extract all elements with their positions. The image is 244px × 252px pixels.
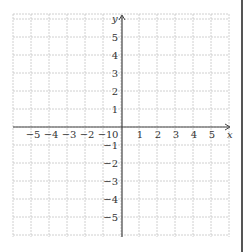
- x-tick-label: 2: [155, 129, 161, 140]
- x-tick-label: −4: [44, 129, 59, 140]
- y-tick-label: −2: [103, 158, 118, 169]
- y-axis-label: y: [111, 13, 118, 24]
- y-tick-label: 1: [112, 104, 118, 115]
- x-tick-label: −2: [80, 129, 95, 140]
- y-tick-label: −5: [103, 212, 118, 223]
- y-tick-label: 3: [112, 68, 118, 79]
- x-tick-label: 4: [191, 129, 197, 140]
- y-tick-label: −3: [103, 176, 118, 187]
- x-tick-label: 3: [173, 129, 179, 140]
- y-tick-label: 2: [112, 86, 118, 97]
- x-tick-labels: −5−4−3−2−1012345: [26, 129, 216, 140]
- y-tick-label: 4: [112, 50, 118, 61]
- y-tick-label: −4: [103, 194, 118, 205]
- coordinate-plane: x y −5−4−3−2−1012345 54321−1−2−3−4−5: [0, 0, 244, 252]
- grid: [13, 14, 229, 237]
- right-border: [241, 0, 243, 252]
- x-tick-label: −5: [26, 129, 41, 140]
- x-tick-label: 5: [209, 129, 215, 140]
- x-tick-label: 0: [112, 129, 118, 140]
- y-tick-label: −1: [103, 140, 118, 151]
- y-tick-label: 5: [112, 32, 118, 43]
- x-axis-label: x: [227, 129, 233, 140]
- x-tick-label: −1: [98, 129, 113, 140]
- x-tick-label: 1: [137, 129, 143, 140]
- x-tick-label: −3: [62, 129, 77, 140]
